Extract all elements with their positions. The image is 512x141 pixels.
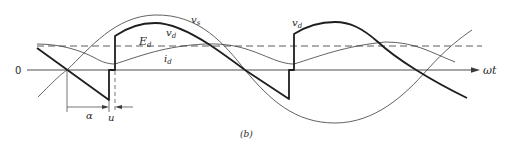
axis-label-wt: ωt — [483, 64, 497, 77]
vd-label-2: vd — [292, 17, 303, 30]
arrow-icon — [115, 105, 122, 109]
alpha-label: α — [86, 110, 93, 121]
alpha-dimension — [67, 70, 109, 112]
vd-label-1: vd — [166, 27, 177, 40]
u-dimension — [109, 36, 133, 112]
vs-label: vs — [191, 14, 201, 27]
u-label: u — [108, 112, 114, 123]
arrow-icon — [102, 105, 109, 109]
ed-label: Ed — [138, 35, 152, 49]
figure-caption: (b) — [240, 129, 253, 139]
origin-label: 0 — [15, 65, 21, 76]
waveform-figure: 0 ωt α u vs vd Ed id vd (b) — [0, 0, 512, 141]
id-label: id — [164, 53, 172, 66]
axis-arrow-icon — [471, 67, 480, 72]
